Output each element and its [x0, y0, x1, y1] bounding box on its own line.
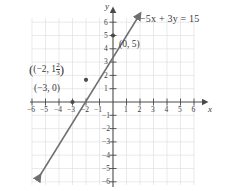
- x-tick--6: −6: [27, 106, 35, 114]
- x-tick-1: 1: [124, 106, 128, 114]
- y-tick-1: 1: [104, 85, 108, 93]
- y-tick--3: −3: [102, 138, 110, 146]
- y-tick--1: −1: [102, 112, 110, 120]
- x-tick--3: −3: [67, 106, 75, 114]
- point-x-intercept: [70, 100, 74, 104]
- x-tick-2: 2: [138, 106, 142, 114]
- y-tick-5: 5: [104, 32, 108, 40]
- graph-canvas: [0, 0, 226, 191]
- point-mid: [84, 78, 88, 82]
- axes: [30, 12, 203, 187]
- x-tick-6: 6: [192, 106, 196, 114]
- point-label-y-intercept: (0, 5): [119, 40, 140, 50]
- x-tick--4: −4: [54, 106, 62, 114]
- point-label-mid: ((−2, 123): [29, 62, 64, 77]
- point-label-mid-text: (−2, 1: [33, 64, 56, 74]
- y-tick--4: −4: [102, 152, 110, 160]
- x-tick-4: 4: [165, 106, 169, 114]
- point-label-mid-close-paren: ): [60, 62, 64, 77]
- y-tick-2: 2: [104, 72, 108, 80]
- x-tick--2: −2: [81, 106, 89, 114]
- equation-annotation: −5x + 3y = 15: [140, 14, 200, 24]
- y-axis-label: y: [105, 2, 109, 11]
- x-tick--5: −5: [40, 106, 48, 114]
- y-tick-6: 6: [104, 19, 108, 27]
- y-tick--6: −6: [102, 178, 110, 186]
- x-tick-5: 5: [178, 106, 182, 114]
- x-tick-3: 3: [151, 106, 155, 114]
- y-tick-3: 3: [104, 58, 108, 66]
- y-tick--5: −5: [102, 165, 110, 173]
- y-tick-4: 4: [104, 45, 108, 53]
- point-label-x-intercept: (−3, 0): [34, 84, 60, 94]
- x-tick--1: −1: [94, 106, 102, 114]
- y-tick--2: −2: [102, 125, 110, 133]
- point-y-intercept: [111, 33, 115, 37]
- x-axis-label: x: [208, 105, 212, 114]
- plotted-points: [70, 33, 115, 104]
- coordinate-plane-figure: y x −6 −5 −4 −3 −2 −1 1 2 3 4 5 6 6 5 4 …: [0, 0, 226, 191]
